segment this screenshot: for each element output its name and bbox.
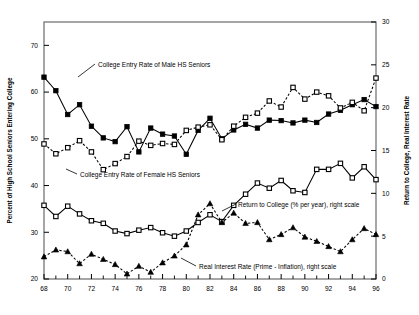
data-point-marker — [338, 161, 342, 165]
x-axis-tick-label: 68 — [40, 285, 48, 292]
data-point-marker — [315, 90, 319, 94]
data-point-marker — [54, 214, 58, 218]
y2-axis-tick-label: 15 — [382, 147, 390, 154]
data-point-marker — [100, 256, 106, 261]
x-axis-tick-label: 80 — [183, 285, 191, 292]
y-axis-tick-label: 60 — [31, 88, 39, 95]
x-axis-tick-label: 78 — [159, 285, 167, 292]
annotation-leader-line — [181, 258, 196, 266]
data-point-marker — [326, 94, 330, 98]
data-point-marker — [195, 212, 201, 217]
data-point-marker — [89, 251, 95, 256]
data-point-marker — [303, 118, 307, 122]
data-point-marker — [77, 138, 81, 142]
data-point-marker — [42, 203, 46, 207]
x-axis-tick-label: 86 — [254, 285, 262, 292]
data-point-marker — [89, 150, 93, 154]
data-point-marker — [338, 106, 342, 110]
data-point-marker — [184, 152, 188, 156]
data-point-marker — [137, 139, 141, 143]
data-point-marker — [361, 226, 367, 231]
data-point-marker — [172, 253, 178, 258]
data-point-marker — [267, 186, 271, 190]
data-point-marker — [113, 139, 117, 143]
data-point-marker — [113, 161, 117, 165]
data-point-marker — [267, 118, 271, 122]
data-point-marker — [373, 232, 379, 237]
data-point-marker — [279, 118, 283, 122]
data-point-marker — [148, 269, 154, 274]
data-point-marker — [255, 126, 259, 130]
y2-axis-title: Return to College, Real Interest Rate — [403, 95, 411, 205]
data-point-marker — [374, 104, 378, 108]
data-point-marker — [137, 228, 141, 232]
series-annotation-label: College Entry Rate of Male HS Seniors — [98, 61, 211, 69]
data-point-marker — [41, 254, 47, 259]
x-axis-tick-label: 84 — [230, 285, 238, 292]
data-point-marker — [172, 234, 176, 238]
y-axis-tick-label: 40 — [31, 182, 39, 189]
data-point-marker — [374, 76, 378, 80]
x-axis-tick-label: 96 — [372, 285, 380, 292]
data-point-marker — [208, 123, 212, 127]
data-point-marker — [278, 232, 284, 237]
data-point-marker — [160, 132, 164, 136]
y2-axis-tick-label: 25 — [382, 61, 390, 68]
data-point-marker — [290, 225, 296, 230]
x-axis-tick-label: 94 — [349, 285, 357, 292]
y-axis-tick-label: 70 — [31, 42, 39, 49]
data-point-marker — [279, 178, 283, 182]
data-point-marker — [243, 220, 249, 225]
data-point-marker — [172, 134, 176, 138]
data-point-marker — [208, 116, 212, 120]
data-point-marker — [255, 220, 261, 225]
x-axis-tick-label: 90 — [301, 285, 309, 292]
data-point-marker — [125, 154, 129, 158]
series-annotation-label: Real Interest Rate (Prime - Inflation), … — [199, 263, 337, 271]
data-point-marker — [362, 97, 366, 101]
data-point-marker — [125, 124, 129, 128]
data-point-marker — [362, 165, 366, 169]
economics-line-chart: 6870727476788082848688909294962030405060… — [0, 0, 419, 315]
data-point-marker — [303, 190, 307, 194]
data-point-marker — [243, 192, 247, 196]
y2-axis-tick-label: 0 — [382, 275, 386, 282]
data-point-marker — [291, 189, 295, 193]
data-point-marker — [89, 124, 93, 128]
y-axis-tick-label: 50 — [31, 135, 39, 142]
data-point-marker — [243, 115, 247, 119]
data-point-marker — [255, 181, 259, 185]
data-point-marker — [66, 145, 70, 149]
data-point-marker — [149, 143, 153, 147]
data-point-marker — [303, 97, 307, 101]
y2-axis-tick-label: 5 — [382, 233, 386, 240]
data-point-marker — [326, 112, 330, 116]
data-point-marker — [172, 142, 176, 146]
data-point-marker — [183, 242, 189, 247]
data-point-marker — [42, 75, 46, 79]
data-point-marker — [208, 213, 212, 217]
x-axis-tick-label: 76 — [135, 285, 143, 292]
data-point-marker — [315, 120, 319, 124]
data-point-marker — [112, 262, 118, 267]
data-point-marker — [42, 142, 46, 146]
series-annotation-label: Return to College (% per year), right sc… — [238, 201, 360, 209]
data-point-marker — [101, 136, 105, 140]
data-point-marker — [350, 176, 354, 180]
data-point-marker — [196, 125, 200, 129]
x-axis-tick-label: 92 — [325, 285, 333, 292]
annotation-leader-line — [66, 169, 77, 174]
data-point-marker — [160, 141, 164, 145]
data-point-marker — [231, 210, 237, 215]
data-point-marker — [160, 231, 164, 235]
data-point-marker — [137, 150, 141, 154]
data-point-marker — [374, 177, 378, 181]
data-point-marker — [101, 221, 105, 225]
data-point-marker — [255, 111, 259, 115]
x-axis-tick-label: 88 — [277, 285, 285, 292]
x-axis-tick-label: 72 — [88, 285, 96, 292]
data-point-marker — [54, 88, 58, 92]
data-point-marker — [77, 103, 81, 107]
data-point-marker — [220, 138, 224, 142]
data-point-marker — [149, 126, 153, 130]
